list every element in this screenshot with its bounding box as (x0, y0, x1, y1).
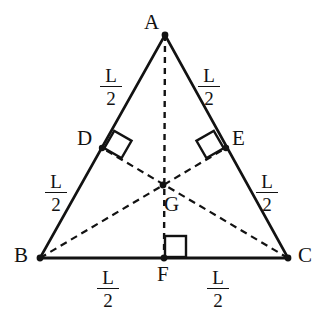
length-label-ad: L 2 (98, 66, 124, 108)
vertex-dot-a (162, 32, 169, 39)
vertex-dot-e (223, 145, 229, 151)
fraction-bar (100, 86, 122, 87)
fraction-numerator: L (196, 66, 222, 86)
length-label-bf: L 2 (95, 268, 121, 310)
fraction-bar (45, 192, 67, 193)
fraction-bar (97, 288, 119, 289)
length-label-fc: L 2 (205, 268, 231, 310)
fraction-numerator: L (98, 66, 124, 86)
median-a-f-line (164, 35, 165, 258)
fraction-denominator: 2 (205, 290, 231, 310)
vertex-label-f: F (157, 264, 169, 285)
vertex-dot-f (161, 255, 168, 262)
fraction-denominator: 2 (95, 290, 121, 310)
fraction-denominator: 2 (196, 88, 222, 108)
vertex-dot-d (99, 145, 105, 151)
length-label-ae: L 2 (196, 66, 222, 108)
fraction-numerator: L (95, 268, 121, 288)
fraction-bar (256, 192, 278, 193)
fraction-denominator: 2 (43, 194, 69, 214)
vertex-label-e: E (232, 128, 245, 149)
fraction-denominator: 2 (254, 194, 280, 214)
vertex-label-c: C (298, 245, 312, 266)
vertex-dot-b (37, 255, 44, 262)
length-label-ec: L 2 (254, 172, 280, 214)
right-angle-at-f-mark (165, 236, 186, 257)
fraction-numerator: L (205, 268, 231, 288)
vertex-dot-g (160, 182, 167, 189)
vertex-dot-c (285, 255, 292, 262)
geometry-figure: A B C D E F G L 2 L 2 L 2 L 2 L 2 L 2 (0, 0, 325, 321)
fraction-numerator: L (43, 172, 69, 192)
vertex-label-a: A (144, 12, 159, 33)
fraction-bar (198, 86, 220, 87)
length-label-db: L 2 (43, 172, 69, 214)
fraction-bar (207, 288, 229, 289)
fraction-denominator: 2 (98, 88, 124, 108)
vertex-label-g: G (164, 194, 179, 215)
vertex-label-d: D (77, 128, 92, 149)
vertex-label-b: B (14, 245, 28, 266)
fraction-numerator: L (254, 172, 280, 192)
